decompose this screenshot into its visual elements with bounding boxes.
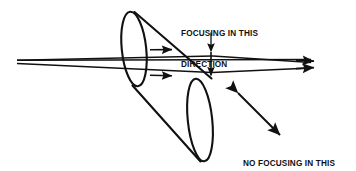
focusing-direction-label: FOCUSING IN THIS DIRECTION [181, 9, 258, 91]
diagonal-double-arrow [238, 93, 280, 135]
ray-bundle [17, 56, 311, 73]
focusing-label-line1: FOCUSING IN THIS [181, 29, 258, 39]
figure-canvas: FOCUSING IN THIS DIRECTION NO FOCUSING I… [0, 0, 356, 171]
ray-arrow-lower [150, 75, 172, 76]
focusing-label-line2: DIRECTION [181, 60, 258, 70]
no-focusing-direction-label: NO FOCUSING IN THIS DIRECTION [243, 139, 335, 171]
focus-arrow-lower [296, 68, 314, 69]
cone-lower-edge [133, 86, 201, 162]
ray-direction-arrows [150, 50, 172, 76]
focus-arrow-upper [296, 60, 314, 61]
no-focusing-label-line1: NO FOCUSING IN THIS [243, 159, 335, 169]
